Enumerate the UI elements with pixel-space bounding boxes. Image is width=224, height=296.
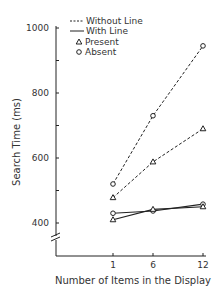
triangle-marker-icon <box>200 126 206 131</box>
circle-marker-icon <box>111 211 116 216</box>
circle-marker-icon <box>201 44 206 49</box>
series-without-line-absent <box>111 44 206 187</box>
legend: Without LineWith LinePresentAbsent <box>70 16 143 57</box>
triangle-marker-icon <box>150 159 156 164</box>
y-tick-label: 400 <box>32 218 49 228</box>
series-line <box>113 207 203 220</box>
x-tick-label: 6 <box>150 260 156 270</box>
line-chart: 4006008001000 1612 Without LineWith Line… <box>0 0 224 296</box>
x-tick-label: 1 <box>110 260 116 270</box>
circle-marker-icon <box>151 113 156 118</box>
y-axis-title: Search Time (ms) <box>11 98 22 186</box>
y-tick-label: 800 <box>32 88 49 98</box>
legend-label: With Line <box>86 26 129 36</box>
x-tick-label: 12 <box>197 260 208 270</box>
legend-label: Present <box>85 37 119 47</box>
series-line <box>113 129 203 198</box>
axes <box>51 26 206 256</box>
series-group <box>110 44 206 222</box>
legend-label: Absent <box>85 47 117 57</box>
circle-marker-icon <box>77 50 82 55</box>
circle-marker-icon <box>111 182 116 187</box>
y-tick-label: 1000 <box>26 23 49 33</box>
triangle-marker-icon <box>76 39 82 44</box>
series-without-line-present <box>110 126 206 200</box>
x-axis-title: Number of Items in the Display <box>55 275 211 286</box>
series-line <box>113 46 203 184</box>
y-ticks: 4006008001000 <box>26 23 59 228</box>
triangle-marker-icon <box>110 217 116 222</box>
triangle-marker-icon <box>150 206 156 211</box>
y-tick-label: 600 <box>32 153 49 163</box>
legend-label: Without Line <box>86 16 143 26</box>
